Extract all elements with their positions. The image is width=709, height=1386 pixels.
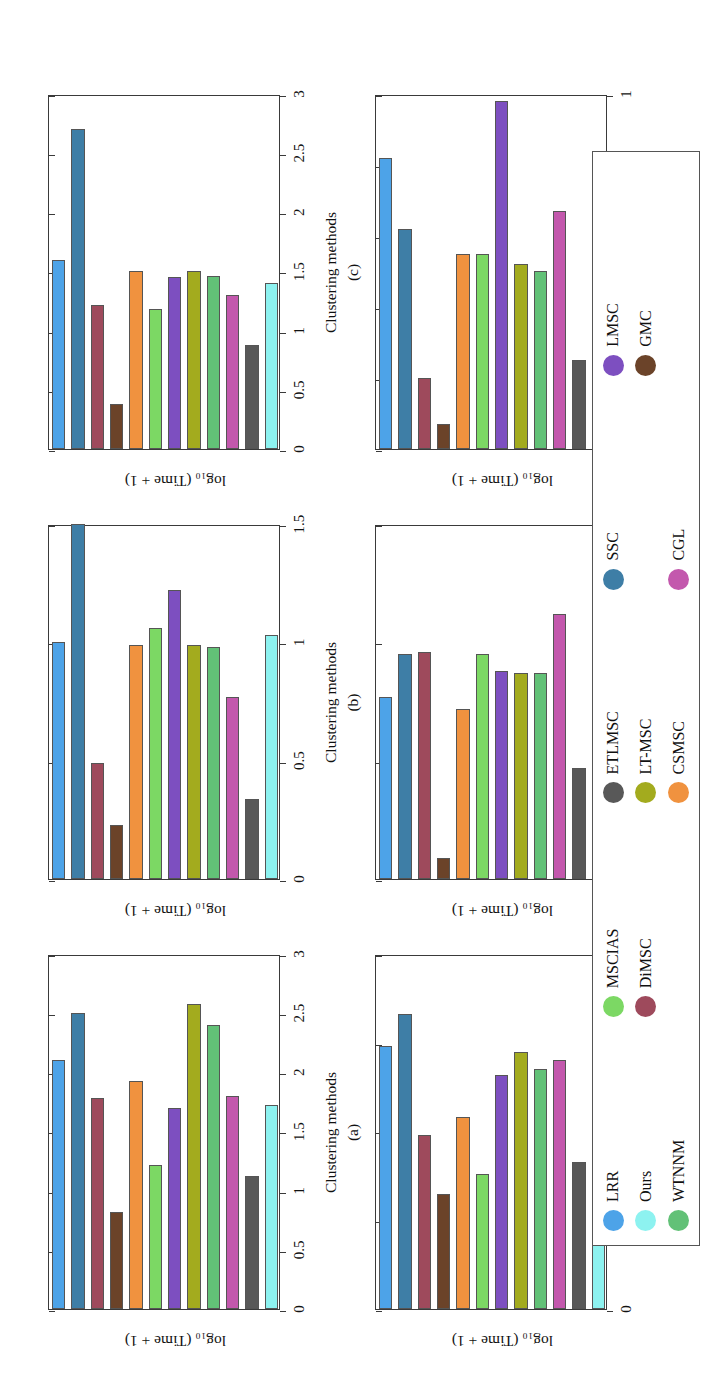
y-axis-tick-label: 0	[291, 857, 308, 901]
y-axis-label: log₁₀ (Time + 1)	[452, 902, 553, 920]
legend-label: DiMSC	[637, 938, 655, 988]
bar-ssc	[71, 130, 85, 450]
legend-label: CSMSC	[670, 721, 688, 774]
bar-lt-msc	[187, 1004, 201, 1309]
legend-item-ours: Ours	[630, 1017, 663, 1231]
bar-lrr	[379, 1046, 393, 1309]
legend-item-wtnnm: WTNNM	[662, 1017, 695, 1231]
bar-mscias	[476, 1174, 490, 1309]
bar-lmsc	[168, 277, 182, 449]
bar-lrr	[379, 158, 393, 449]
y-axis-tick	[49, 1311, 55, 1312]
y-axis-tick	[607, 96, 613, 97]
y-axis-tick	[280, 644, 286, 645]
y-axis-tick-label: 1	[291, 620, 308, 664]
y-axis-tick-label: 0	[618, 1287, 635, 1331]
plot-area: 00.511.5	[375, 525, 607, 880]
bar-dimsc	[91, 305, 105, 449]
legend-label: LT-MSC	[637, 719, 655, 775]
x-axis-label: Clustering methods	[322, 95, 340, 450]
y-axis-tick	[280, 451, 286, 452]
bar-lrr	[379, 697, 393, 879]
y-axis-tick	[280, 333, 286, 334]
legend-label: LMSC	[604, 303, 622, 347]
y-axis-tick	[280, 96, 286, 97]
bar-lmsc	[495, 1075, 509, 1309]
bar-cgl	[553, 614, 567, 879]
bar-lt-msc	[514, 1052, 528, 1309]
legend-color-swatch-icon	[668, 782, 689, 803]
y-axis-tick	[49, 214, 55, 215]
bar-csmsc	[456, 254, 470, 449]
chart-panel-a: log₁₀ (Time + 1)00.511.522.53Clustering …	[48, 934, 350, 1364]
y-axis-tick	[49, 96, 55, 97]
bar-etlmsc	[245, 799, 259, 879]
y-axis-tick	[280, 155, 286, 156]
legend-item-dimsc: DiMSC	[630, 803, 663, 1017]
y-axis-tick-label: 0	[291, 1287, 308, 1331]
y-axis-tick-label: 0.5	[291, 1228, 308, 1272]
bar-mscias	[149, 1165, 163, 1309]
legend-color-swatch-icon	[603, 996, 624, 1017]
bar-wtnnm	[207, 1025, 221, 1309]
y-axis-tick-label: 2	[291, 190, 308, 234]
bar-cgl	[226, 295, 240, 449]
legend-label: Ours	[637, 1171, 655, 1202]
bar-lmsc	[495, 101, 509, 449]
y-axis-tick	[280, 1015, 286, 1016]
bar-csmsc	[129, 1081, 143, 1309]
bar-mscias	[476, 254, 490, 449]
bar-etlmsc	[572, 360, 586, 449]
plot-area: 00.20.40.60.81	[375, 95, 607, 450]
panel-caption: (c)	[344, 95, 362, 450]
legend-color-swatch-icon	[668, 1210, 689, 1231]
plot-area: 00.511.52	[375, 955, 607, 1310]
bar-ssc	[398, 229, 412, 449]
y-axis-tick	[376, 881, 382, 882]
bar-csmsc	[129, 272, 143, 450]
bar-ssc	[398, 1014, 412, 1309]
bar-mscias	[149, 309, 163, 449]
bar-mscias	[149, 628, 163, 879]
bar-gmc	[437, 1194, 451, 1309]
panel-caption: (a)	[344, 955, 362, 1310]
y-axis-tick-label: 1.5	[291, 250, 308, 294]
legend-item-mscias: MSCIAS	[597, 803, 630, 1017]
bar-cgl	[553, 211, 567, 449]
chart-panel-b: log₁₀ (Time + 1)00.511.5Clustering metho…	[48, 504, 350, 934]
y-axis-tick	[280, 956, 286, 957]
y-axis-tick	[376, 526, 382, 527]
bar-lmsc	[168, 590, 182, 879]
bar-cgl	[226, 697, 240, 879]
bar-etlmsc	[245, 1176, 259, 1309]
bar-wtnnm	[534, 673, 548, 879]
bar-lt-msc	[187, 645, 201, 879]
bar-lrr	[52, 260, 66, 449]
bar-etlmsc	[572, 768, 586, 879]
y-axis-tick	[376, 956, 382, 957]
y-axis-tick-label: 1.5	[291, 1110, 308, 1154]
bar-gmc	[110, 1212, 124, 1309]
legend-color-swatch-icon	[668, 569, 689, 590]
y-axis-tick	[49, 155, 55, 156]
bar-ssc	[71, 1013, 85, 1309]
legend-color-swatch-icon	[635, 355, 656, 376]
legend-label: WTNNM	[670, 1140, 688, 1202]
plot-area: 00.511.5	[48, 525, 280, 880]
y-axis-tick	[280, 1134, 286, 1135]
bar-etlmsc	[572, 1162, 586, 1309]
y-axis-tick	[49, 956, 55, 957]
plot-area: 00.511.522.53	[48, 95, 280, 450]
figure-canvas: log₁₀ (Time + 1)00.511.522.53Clustering …	[0, 0, 709, 1386]
rotated-figure-wrapper: log₁₀ (Time + 1)00.511.522.53Clustering …	[0, 0, 709, 1386]
legend-color-swatch-icon	[603, 355, 624, 376]
legend-grid: LRRMSCIASETLMSCSSCLMSCOursDiMSCLT-MSCGMC…	[593, 152, 699, 1245]
panel-caption: (b)	[344, 525, 362, 880]
bar-dimsc	[418, 652, 432, 879]
bar-wtnnm	[534, 272, 548, 450]
bar-lt-msc	[514, 264, 528, 449]
bar-dimsc	[418, 378, 432, 449]
legend-label: MSCIAS	[604, 929, 622, 989]
legend-item-cgl: CGL	[662, 376, 695, 590]
y-axis-label: log₁₀ (Time + 1)	[125, 1332, 226, 1350]
